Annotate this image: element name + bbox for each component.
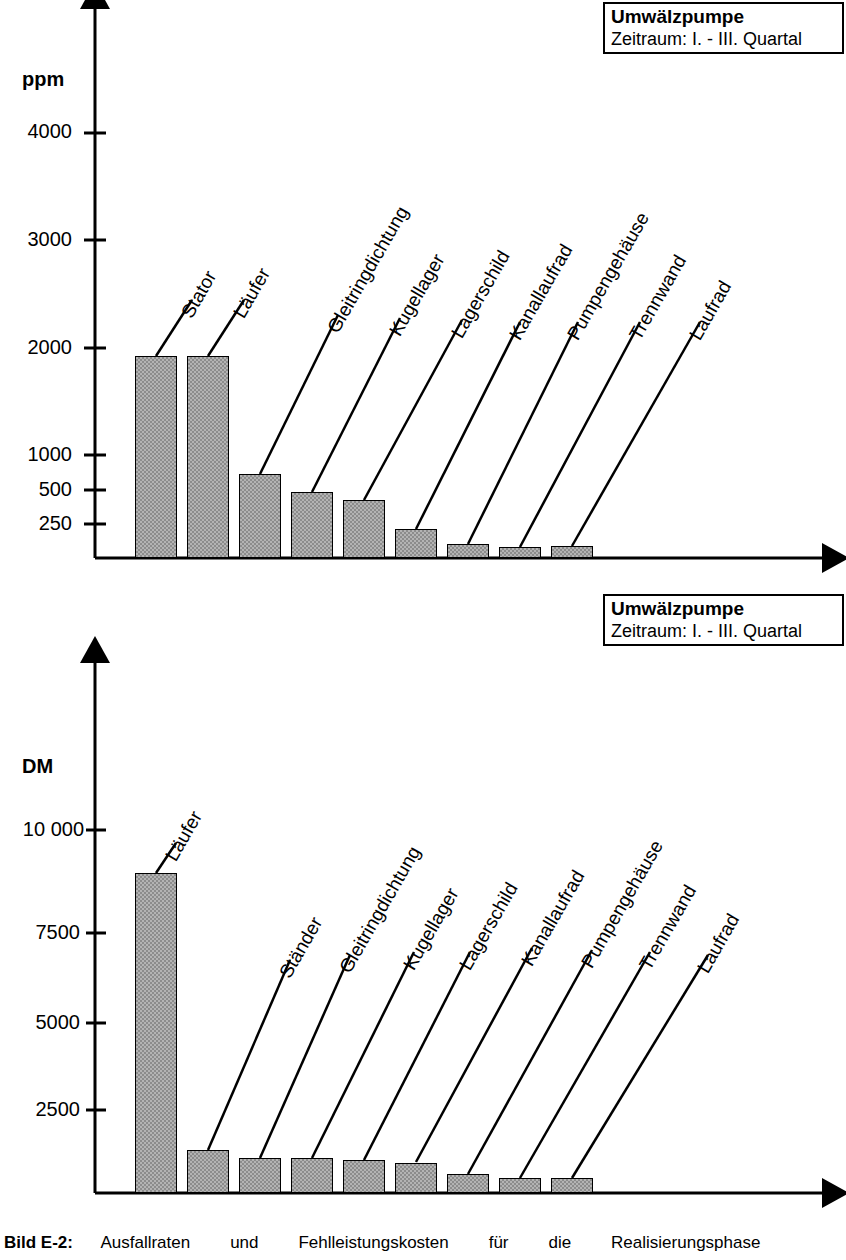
chart2-bar-kanallaufrad: [395, 1163, 437, 1193]
chart2-bar-lagerschild: [343, 1160, 385, 1193]
chart2-bar-laufrad: [551, 1178, 593, 1193]
chart2-bar-pumpengehaeuse: [447, 1174, 489, 1193]
chart2-bar-staender: [187, 1150, 229, 1193]
chart2-bar-trennwand: [499, 1178, 541, 1193]
figure-caption: Bild E-2: Ausfallraten und Fehlleistungs…: [4, 1232, 844, 1253]
caption-figure-number: Bild E-2:: [4, 1233, 73, 1252]
chart2-bar-gleitringdichtung: [239, 1158, 281, 1193]
chart2-bar-laeufer: [135, 873, 177, 1193]
chart2-axes: [0, 0, 846, 1260]
caption-text: Ausfallraten und Fehlleistungskosten für…: [100, 1232, 760, 1253]
chart2-bar-kugellager: [291, 1158, 333, 1193]
